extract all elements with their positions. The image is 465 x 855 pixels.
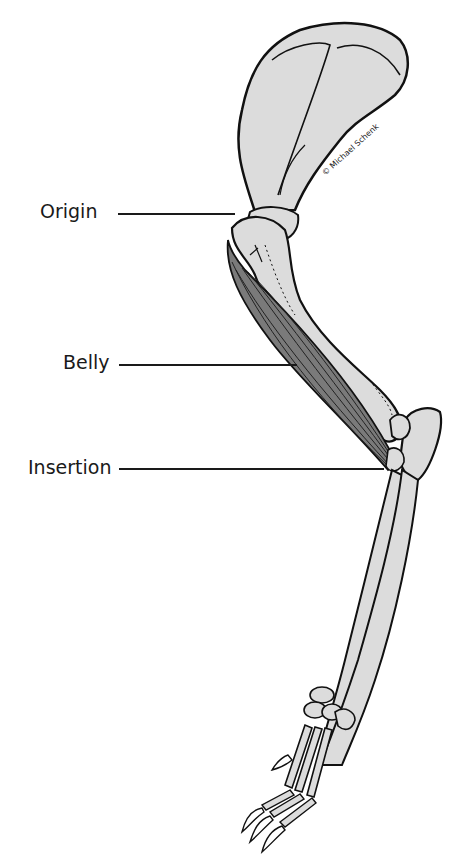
- humerus: [232, 217, 401, 442]
- limb-illustration: © Michael Schenk: [0, 0, 465, 855]
- leader-line-insertion: [119, 468, 384, 470]
- elbow-joint: [386, 408, 441, 480]
- label-belly: Belly: [63, 351, 110, 373]
- leader-line-origin: [118, 213, 235, 215]
- paw-bones: [242, 725, 332, 852]
- leader-line-belly: [119, 364, 297, 366]
- muscle-belly: [228, 240, 396, 470]
- label-origin: Origin: [40, 200, 97, 222]
- label-insertion: Insertion: [28, 456, 111, 478]
- scapula: © Michael Schenk: [238, 23, 407, 212]
